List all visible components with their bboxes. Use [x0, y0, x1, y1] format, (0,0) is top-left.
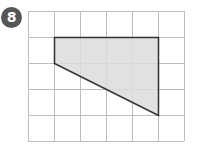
- grid-diagram: [0, 0, 200, 157]
